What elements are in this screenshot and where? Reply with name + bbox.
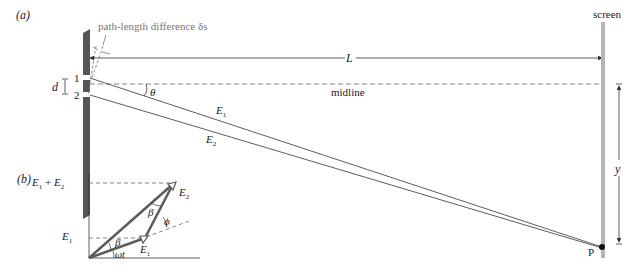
beta-bottom-label: β bbox=[114, 236, 121, 248]
panel-b-label: (b) bbox=[17, 172, 31, 186]
panel-a-label: (a) bbox=[16, 8, 30, 22]
phi-label: ϕ bbox=[164, 215, 170, 227]
sum-axis-label: E1 + E2 bbox=[31, 176, 65, 191]
slit-separation-label: d bbox=[52, 80, 59, 94]
screen bbox=[601, 22, 605, 258]
path-length-marker bbox=[88, 35, 110, 96]
slit-1-label: 1 bbox=[74, 72, 80, 84]
slit-separation-marker bbox=[62, 79, 68, 94]
height-label: y bbox=[614, 162, 621, 176]
theta-label: θ bbox=[150, 86, 156, 98]
phasor-guides bbox=[89, 183, 192, 238]
theta-arc bbox=[144, 84, 147, 96]
point-p-label: P bbox=[588, 246, 594, 258]
e1-axis-label: E1 bbox=[61, 230, 73, 245]
phasor-e2-label: E2 bbox=[178, 186, 190, 201]
slit-2-label: 2 bbox=[74, 89, 80, 101]
ray-e1-label: E1 bbox=[215, 104, 227, 119]
phasor-e1-label: E1 bbox=[139, 243, 151, 258]
midline-label: midline bbox=[331, 86, 365, 98]
distance-label: L bbox=[345, 51, 353, 65]
beta-top-label: β bbox=[147, 206, 154, 218]
path-length-label: path-length difference δs bbox=[98, 20, 207, 32]
double-slit-diagram: (a) path-length difference δs L midline … bbox=[0, 0, 638, 274]
screen-label: screen bbox=[593, 8, 622, 20]
phasor-triangle bbox=[89, 184, 173, 258]
ray-e2-label: E2 bbox=[205, 133, 217, 148]
point-p-marker bbox=[599, 244, 605, 250]
omega-t-label: ωt bbox=[115, 249, 125, 260]
